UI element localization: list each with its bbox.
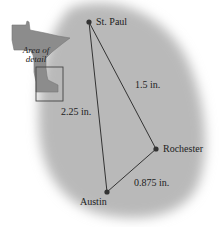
city-label-st-paul: St. Paul bbox=[96, 17, 127, 27]
austin-dot-icon bbox=[104, 189, 109, 194]
map-diagram: Area of detail St. Paul Rochester Austin… bbox=[0, 0, 220, 227]
distance-label-stpaul-rochester: 1.5 in. bbox=[135, 80, 160, 90]
diagram-graphics bbox=[0, 0, 220, 227]
rochester-dot-icon bbox=[153, 146, 158, 151]
city-label-austin: Austin bbox=[80, 197, 107, 207]
city-label-rochester: Rochester bbox=[163, 144, 203, 154]
area-of-detail-line2: detail bbox=[26, 54, 47, 64]
stpaul-dot-icon bbox=[86, 19, 91, 24]
distance-label-stpaul-austin: 2.25 in. bbox=[61, 107, 91, 117]
distance-label-rochester-austin: 0.875 in. bbox=[134, 178, 169, 188]
area-of-detail-label: Area of detail bbox=[16, 46, 56, 65]
